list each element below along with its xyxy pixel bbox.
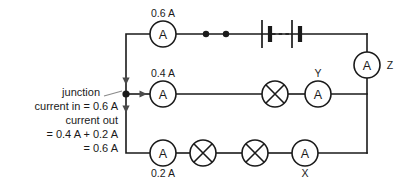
ammeter-x-glyph: A xyxy=(301,147,310,161)
current-out-right-arrow-head-icon xyxy=(140,91,148,98)
junction-leader-line xyxy=(104,91,122,96)
ammeter-top-glyph: A xyxy=(159,28,168,42)
terminal-dot-right xyxy=(223,31,229,37)
ammeter-bottom-glyph: A xyxy=(159,147,168,161)
circuit-diagram-canvas: A 0.6 A A Z A 0.4 A A Y A 0.2 A xyxy=(0,0,408,192)
ammeter-x-label: X xyxy=(301,167,308,179)
ammeter-z-label: Z xyxy=(387,59,394,71)
current-in-arrow-head-icon xyxy=(122,78,129,86)
ammeter-z-glyph: A xyxy=(363,59,372,73)
current-out-down-arrow-head-icon xyxy=(122,106,129,114)
annotation-line-sum-expression: = 0.4 A + 0.2 A xyxy=(46,128,118,140)
ammeter-bottom-reading: 0.2 A xyxy=(151,167,175,179)
ammeter-middle-glyph: A xyxy=(159,88,168,102)
junction-node-dot xyxy=(122,90,129,97)
annotation-line-current-out: current out xyxy=(65,114,118,126)
annotation-line-sum-result: = 0.6 A xyxy=(83,142,118,154)
ammeter-y-glyph: A xyxy=(314,88,323,102)
annotation-line-current-in: current in = 0.6 A xyxy=(35,100,119,112)
wire-left-riser-top xyxy=(126,34,150,94)
annotation-line-junction: junction xyxy=(61,86,100,98)
ammeter-middle-reading: 0.4 A xyxy=(151,67,175,79)
ammeter-top-reading: 0.6 A xyxy=(151,7,175,19)
ammeter-y-label: Y xyxy=(314,67,321,79)
circuit-diagram: A 0.6 A A Z A 0.4 A A Y A 0.2 A xyxy=(0,0,408,192)
terminal-dot-left xyxy=(203,31,209,37)
wire-left-riser-bottom xyxy=(126,94,150,153)
